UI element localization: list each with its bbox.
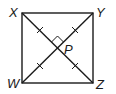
vertex-label-x: X — [8, 5, 19, 20]
right-angle-mark — [52, 36, 64, 42]
vertex-label-y: Y — [96, 5, 106, 20]
intersection-label-p: P — [64, 42, 73, 57]
square-diagram: X Y W Z P — [0, 0, 116, 94]
vertex-label-w: W — [7, 76, 21, 91]
vertex-label-z: Z — [95, 77, 105, 92]
